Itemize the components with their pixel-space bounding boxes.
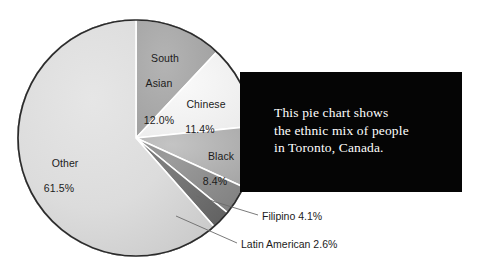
callout-note-text: This pie chart shows the ethnic mix of p… — [274, 104, 409, 157]
pie-chart-figure: This pie chart shows the ethnic mix of p… — [0, 0, 479, 277]
slice-label-south-asian-name: South — [151, 52, 179, 64]
slice-label-chinese-name: Chinese — [186, 98, 225, 110]
slice-label-other-name: Other — [52, 157, 79, 169]
slice-label-chinese-value: 11.4% — [170, 123, 230, 135]
slice-label-black-name: Black — [208, 150, 234, 162]
slice-label-black: Black 8.4% — [190, 138, 240, 212]
slice-label-filipino: Filipino 4.1% — [262, 210, 322, 222]
slice-label-other-value: 61.5% — [33, 182, 85, 194]
slice-label-other: Other 61.5% — [33, 145, 85, 219]
callout-note-box: This pie chart shows the ethnic mix of p… — [240, 72, 462, 192]
slice-label-latin-american: Latin American 2.6% — [241, 238, 337, 250]
slice-label-black-value: 8.4% — [190, 175, 240, 187]
